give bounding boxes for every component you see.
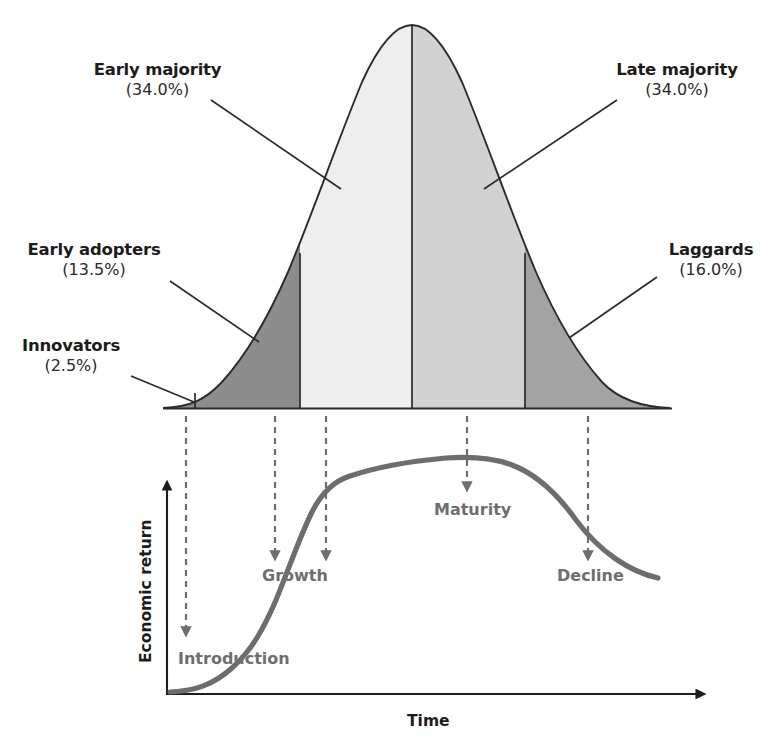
x-axis-title: Time — [407, 712, 450, 730]
bell-label-late-majority-title: Late majority — [588, 60, 766, 80]
bell-label-late-majority: Late majority (34.0%) — [588, 60, 766, 100]
stage-dropline-group — [186, 416, 588, 633]
stage-label-growth: Growth — [262, 566, 328, 585]
bell-label-early-adopters: Early adopters (13.5%) — [18, 240, 170, 280]
leader-line-early-adopters — [170, 281, 259, 342]
diffusion-of-innovation-figure: Early majority (34.0%) Late majority (34… — [0, 0, 778, 747]
bell-label-early-majority: Early majority (34.0%) — [65, 60, 250, 100]
bell-label-innovators-title: Innovators — [12, 336, 130, 356]
stage-label-decline: Decline — [557, 566, 624, 585]
bell-label-early-adopters-title: Early adopters — [18, 240, 170, 260]
bell-label-innovators-percent: (2.5%) — [12, 356, 130, 376]
stage-label-maturity: Maturity — [434, 500, 511, 519]
leader-line-early-majority — [211, 100, 341, 189]
bell-label-early-majority-percent: (34.0%) — [65, 80, 250, 100]
bell-label-innovators: Innovators (2.5%) — [12, 336, 130, 376]
bell-label-laggards-percent: (16.0%) — [655, 260, 767, 280]
bell-label-laggards-title: Laggards — [655, 240, 767, 260]
bell-label-early-majority-title: Early majority — [65, 60, 250, 80]
leader-line-late-majority — [484, 100, 617, 189]
leader-line-innovators — [131, 376, 194, 402]
y-axis-title: Economic return — [137, 520, 155, 663]
bell-label-early-adopters-percent: (13.5%) — [18, 260, 170, 280]
bell-label-laggards: Laggards (16.0%) — [655, 240, 767, 280]
leader-line-laggards — [569, 277, 657, 338]
stage-label-introduction: Introduction — [178, 649, 290, 668]
bell-label-late-majority-percent: (34.0%) — [588, 80, 766, 100]
